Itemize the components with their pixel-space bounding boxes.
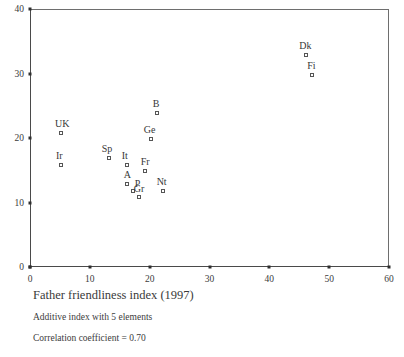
y-axis-tick-label: 40 [2, 4, 24, 14]
x-axis-tick [88, 266, 91, 269]
x-axis-tick [328, 266, 331, 269]
data-point-marker [59, 163, 63, 167]
y-axis-tick [29, 266, 32, 269]
x-axis-tick [388, 266, 391, 269]
data-point-label: Ir [56, 151, 63, 161]
data-point-label: Nt [157, 177, 167, 187]
data-point-label: Fr [141, 157, 150, 167]
x-axis-tick [208, 266, 211, 269]
data-point-marker [310, 73, 314, 77]
data-point-marker [59, 131, 63, 135]
data-point-marker [137, 195, 141, 199]
x-axis-tick [148, 266, 151, 269]
x-axis-tick-label: 60 [374, 274, 404, 284]
y-axis-tick [29, 8, 32, 11]
y-axis-tick-label: 0 [2, 262, 24, 272]
data-point-label: It [122, 151, 128, 161]
y-axis-tick [29, 137, 32, 140]
x-axis-tick [268, 266, 271, 269]
x-axis-tick-label: 20 [135, 274, 165, 284]
chart-subtitle: Additive index with 5 elements [33, 312, 152, 323]
data-point-label: Gr [134, 184, 145, 194]
chart-title: Father friendliness index (1997) [33, 288, 194, 302]
x-axis-tick-label: 30 [195, 274, 225, 284]
y-axis-tick-label: 10 [2, 198, 24, 208]
x-axis-tick-label: 0 [15, 274, 45, 284]
data-point-label: Dk [299, 41, 311, 51]
x-axis-tick-label: 40 [254, 274, 284, 284]
x-axis-tick-label: 50 [314, 274, 344, 284]
scatter-plot-figure: 0102030405060010203040 UKIrSpItAPGrFrGeB… [0, 0, 404, 357]
data-point-marker [125, 182, 129, 186]
data-point-marker [161, 189, 165, 193]
data-point-marker [304, 53, 308, 57]
plot-area [30, 9, 389, 267]
data-point-marker [107, 156, 111, 160]
y-axis-tick [29, 72, 32, 75]
y-axis-tick [29, 201, 32, 204]
data-point-marker [143, 169, 147, 173]
data-point-label: B [153, 99, 160, 109]
y-axis-tick-label: 30 [2, 69, 24, 79]
data-point-marker [149, 137, 153, 141]
data-point-label: Ge [144, 125, 156, 135]
x-axis-tick-label: 10 [75, 274, 105, 284]
y-axis-tick-label: 20 [2, 133, 24, 143]
data-point-label: Fi [307, 61, 315, 71]
data-point-marker [155, 111, 159, 115]
data-point-marker [125, 163, 129, 167]
data-point-label: A [124, 170, 131, 180]
data-point-label: UK [55, 119, 69, 129]
correlation-annotation: Correlation coefficient = 0.70 [33, 333, 146, 344]
data-point-label: Sp [102, 144, 113, 154]
